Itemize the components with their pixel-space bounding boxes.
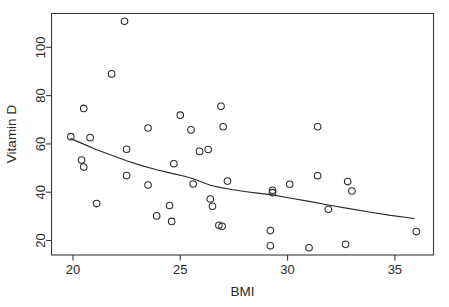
y-tick-label: 80 <box>33 88 48 102</box>
y-tick-label: 60 <box>33 137 48 151</box>
plot-canvas: 20253035 20406080100 BMI Vitamin D <box>0 0 449 307</box>
y-tick-label: 100 <box>33 36 48 58</box>
scatter-plot-figure: 20253035 20406080100 BMI Vitamin D <box>0 0 449 307</box>
x-axis-title: BMI <box>230 284 254 299</box>
x-tick-label: 35 <box>388 262 402 277</box>
figure-background <box>0 0 449 307</box>
x-tick-label: 20 <box>66 262 80 277</box>
x-tick-label: 25 <box>173 262 187 277</box>
y-axis-title: Vitamin D <box>4 105 19 164</box>
x-tick-label: 30 <box>280 262 294 277</box>
y-tick-label: 20 <box>33 233 48 247</box>
y-tick-label: 40 <box>33 185 48 199</box>
